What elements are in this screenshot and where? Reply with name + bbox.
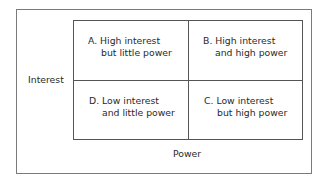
quadrant-a: A. High interest but little power — [88, 35, 172, 59]
quadrant-b: B. High interest and high power — [203, 35, 287, 59]
quadrant-grid: A. High interest but little power B. Hig… — [73, 20, 303, 140]
y-axis-label: Interest — [28, 74, 64, 85]
horizontal-divider — [74, 80, 302, 81]
quadrant-d-line2: and little power — [89, 107, 175, 119]
quadrant-b-line1: B. High interest — [203, 35, 275, 46]
quadrant-c-line1: C. Low interest — [204, 95, 273, 106]
quadrant-c: C. Low interest but high power — [204, 95, 287, 119]
quadrant-d: D. Low interest and little power — [89, 95, 175, 119]
quadrant-b-line2: and high power — [203, 47, 287, 59]
quadrant-a-line1: A. High interest — [88, 35, 160, 46]
quadrant-a-line2: but little power — [88, 47, 172, 59]
quadrant-c-line2: but high power — [204, 107, 287, 119]
x-axis-label: Power — [173, 148, 201, 159]
quadrant-d-line1: D. Low interest — [89, 95, 159, 106]
